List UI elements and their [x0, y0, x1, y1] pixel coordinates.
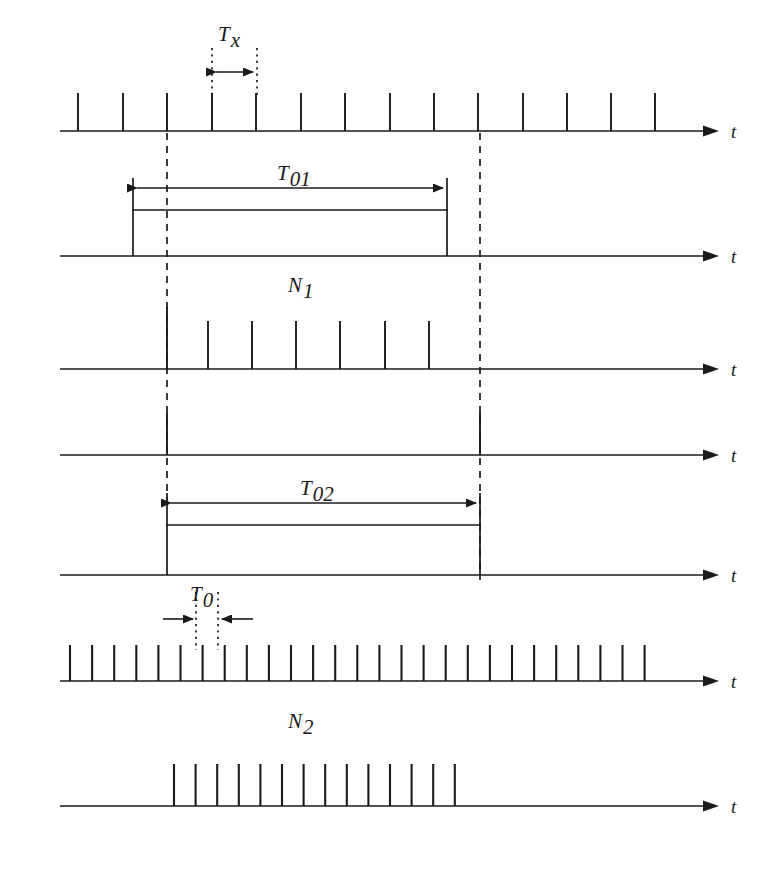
axis-arrow-row-7 — [703, 801, 719, 812]
gate-pulse-t01 — [133, 210, 447, 256]
axis-label-row-1: t — [731, 121, 737, 142]
axis-label-row-4: t — [731, 445, 737, 466]
row-n1-count: N1 t — [60, 273, 737, 380]
row-gate-t02: t T02 — [60, 476, 737, 586]
t0-dimension-marker: T0 — [163, 582, 253, 650]
row-n2-count: N2 t — [60, 709, 737, 817]
row-sync-window: t — [60, 413, 737, 466]
tx-dimension-marker: Tx — [212, 22, 257, 99]
pulse-train-input — [78, 93, 655, 131]
axis-arrow-row-1 — [703, 126, 719, 137]
axis-label-row-6: t — [731, 671, 737, 692]
t0-label: T0 — [190, 582, 214, 612]
axis-arrow-row-4 — [703, 450, 719, 461]
axis-arrow-row-5 — [703, 570, 719, 581]
t01-dimension-marker: T01 — [133, 161, 447, 211]
axis-arrow-row-6 — [703, 676, 719, 687]
axis-label-row-3: t — [731, 359, 737, 380]
row-reference-clock: T0 t — [60, 582, 737, 692]
t02-label: T02 — [300, 476, 334, 506]
pulse-train-n2 — [174, 764, 455, 806]
timing-diagram-svg: t Tx — [0, 0, 759, 869]
pulse-train-reference — [70, 645, 645, 681]
t01-label: T01 — [277, 161, 311, 191]
axis-arrow-row-2 — [703, 251, 719, 262]
vertical-guides — [167, 133, 480, 580]
t02-dimension-marker: T02 — [167, 476, 480, 526]
axis-label-row-5: t — [731, 565, 737, 586]
row-input-clock: t Tx — [60, 22, 737, 142]
axis-label-row-7: t — [731, 796, 737, 817]
row-gate-t01: t T01 — [60, 161, 737, 267]
gate-pulse-t02 — [167, 525, 480, 575]
axis-arrow-row-3 — [703, 364, 719, 375]
pulse-train-n1 — [167, 307, 429, 369]
n2-label: N2 — [287, 709, 314, 739]
tx-label: Tx — [218, 22, 241, 52]
timing-diagram-figure: t Tx — [0, 0, 759, 869]
axis-label-row-2: t — [731, 246, 737, 267]
n1-label: N1 — [287, 273, 314, 303]
